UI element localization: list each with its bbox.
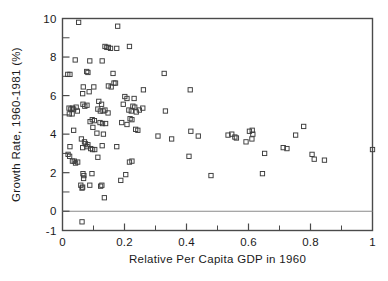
data-point-marker xyxy=(79,137,83,141)
data-point-marker xyxy=(96,155,100,159)
data-point-marker xyxy=(99,102,103,106)
data-point-marker xyxy=(293,133,297,137)
y-tick-label: 2 xyxy=(50,167,57,179)
data-point-marker xyxy=(260,172,264,176)
data-point-marker xyxy=(322,158,326,162)
data-point-marker xyxy=(67,112,71,116)
data-point-marker xyxy=(187,154,191,158)
data-point-marker xyxy=(70,112,74,116)
x-axis: 00.20.40.60.81 xyxy=(59,224,376,248)
x-axis-title: Relative Per Capita GDP in 1960 xyxy=(129,253,306,265)
y-tick-label: 0 xyxy=(50,205,57,217)
data-point-marker xyxy=(196,134,200,138)
data-point-marker xyxy=(103,121,107,125)
data-point-marker xyxy=(91,125,95,129)
data-point-marker xyxy=(141,88,145,92)
y-axis-title: Growth Rate, 1960-1981 (%) xyxy=(10,47,22,202)
data-point-marker xyxy=(76,20,80,24)
data-point-marker xyxy=(250,137,254,141)
data-point-marker xyxy=(120,120,124,124)
data-point-marker xyxy=(111,71,115,75)
data-point-marker xyxy=(102,196,106,200)
data-point-marker xyxy=(162,71,166,75)
data-point-marker xyxy=(100,59,104,63)
data-point-marker xyxy=(88,183,92,187)
data-points xyxy=(66,20,375,224)
y-tick-label: 4 xyxy=(50,128,57,140)
x-tick-label: 0 xyxy=(59,236,66,248)
data-point-marker xyxy=(90,172,94,176)
data-point-marker xyxy=(106,111,110,115)
y-tick-label: 6 xyxy=(50,90,57,102)
data-point-marker xyxy=(72,128,76,132)
y-tick-label: -1 xyxy=(46,225,57,237)
data-point-marker xyxy=(92,85,96,89)
data-point-marker xyxy=(80,220,84,224)
data-point-marker xyxy=(116,24,120,28)
y-tick-label: 8 xyxy=(50,51,57,63)
data-point-marker xyxy=(115,46,119,50)
plot-canvas: -1024681000.20.40.60.81Relative Per Capi… xyxy=(0,0,388,281)
data-point-marker xyxy=(88,59,92,63)
data-point-marker xyxy=(127,44,131,48)
data-point-marker xyxy=(95,131,99,135)
data-point-marker xyxy=(100,144,104,148)
data-point-marker xyxy=(115,145,119,149)
data-point-marker xyxy=(132,96,136,100)
data-point-marker xyxy=(113,81,117,85)
data-point-marker xyxy=(73,58,77,62)
y-axis: -10246810 xyxy=(43,13,69,237)
scatter-plot-figure: -1024681000.20.40.60.81Relative Per Capi… xyxy=(0,0,388,281)
data-point-marker xyxy=(119,178,123,182)
data-point-marker xyxy=(101,132,105,136)
x-tick-label: 1 xyxy=(369,236,376,248)
data-point-marker xyxy=(97,99,101,103)
data-point-marker xyxy=(125,122,129,126)
x-tick-label: 0.2 xyxy=(116,236,133,248)
data-point-marker xyxy=(68,145,72,149)
data-point-marker xyxy=(81,85,85,89)
data-point-marker xyxy=(87,90,91,94)
y-tick-label: 10 xyxy=(43,13,56,25)
x-tick-label: 0.8 xyxy=(302,236,319,248)
x-tick-label: 0.4 xyxy=(178,236,195,248)
data-point-marker xyxy=(209,173,213,177)
data-point-marker xyxy=(302,124,306,128)
data-point-marker xyxy=(156,134,160,138)
data-point-marker xyxy=(244,140,248,144)
data-point-marker xyxy=(262,151,266,155)
data-point-marker xyxy=(169,137,173,141)
data-point-marker xyxy=(81,92,85,96)
data-point-marker xyxy=(310,152,314,156)
x-tick-label: 0.6 xyxy=(240,236,257,248)
data-point-marker xyxy=(121,102,125,106)
data-point-marker xyxy=(124,172,128,176)
data-point-marker xyxy=(312,157,316,161)
data-point-marker xyxy=(189,129,193,133)
data-point-marker xyxy=(163,109,167,113)
data-point-marker xyxy=(188,88,192,92)
